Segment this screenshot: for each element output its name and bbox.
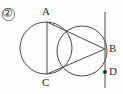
point-b-label: B (109, 43, 116, 54)
geometry-canvas (0, 0, 123, 94)
segment-cb (47, 49, 105, 74)
geometry-figure: ② A C B D (0, 0, 123, 94)
point-a-label: A (42, 6, 50, 17)
point-d-label: D (109, 66, 117, 77)
point-d-dot (103, 70, 107, 74)
item-number-label: ② (2, 7, 13, 19)
segment-ab (47, 22, 105, 49)
point-c-label: C (42, 77, 49, 88)
